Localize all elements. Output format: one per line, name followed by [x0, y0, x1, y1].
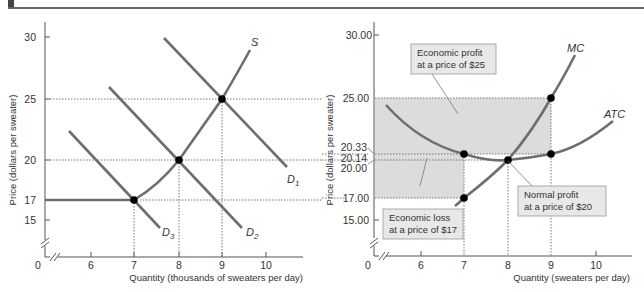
left-xtick-10: 10 — [260, 259, 272, 271]
label-d1: D1 — [287, 173, 299, 188]
label-atc: ATC — [603, 108, 625, 120]
economic-profit-box: Economic profit at a price of $25 — [411, 44, 496, 74]
right-xtick-7: 7 — [461, 259, 467, 271]
right-ylabel: Price (dollars per sweater) — [324, 95, 335, 206]
left-origin-label: 0 — [35, 259, 41, 271]
normal-profit-box: Normal profit at a price of $20 — [518, 186, 606, 216]
equilibrium-point-d1 — [218, 95, 226, 103]
demand-curve-d3 — [69, 131, 160, 228]
left-ytick-20: 20 — [24, 154, 36, 166]
equilibrium-point-d2 — [175, 156, 183, 164]
svg-text:at a price of $25: at a price of $25 — [417, 59, 485, 70]
equilibrium-point-d3 — [130, 196, 138, 204]
left-xlabel: Quantity (thousands of sweaters per day) — [129, 272, 303, 283]
left-chart: Price (dollars per sweater) 30 25 20 17 … — [7, 22, 322, 283]
right-ytick-20-00: 20.00 — [341, 162, 367, 174]
left-ylabel: Price (dollars per sweater) — [7, 95, 18, 206]
demand-curve-d1 — [164, 38, 287, 167]
left-xtick-6: 6 — [88, 259, 94, 271]
label-d3: D3 — [162, 226, 175, 241]
svg-text:Economic profit: Economic profit — [417, 47, 483, 58]
left-xtick-7: 7 — [131, 259, 137, 271]
right-origin-label: 0 — [365, 259, 371, 271]
right-chart: Price (dollars per sweater) 30.00 25.00 … — [322, 22, 632, 283]
point-atc-7 — [460, 150, 468, 158]
point-mc-25 — [547, 94, 555, 102]
left-guides — [50, 99, 322, 257]
right-ytick-15: 15.00 — [343, 214, 369, 226]
svg-text:at a price of $17: at a price of $17 — [389, 224, 457, 235]
supply-curve — [45, 50, 250, 200]
svg-text:at a price of $20: at a price of $20 — [524, 201, 592, 212]
right-ytick-30: 30.00 — [346, 29, 372, 41]
economic-profit-area — [375, 98, 551, 154]
charts-canvas: Price (dollars per sweater) 30 25 20 17 … — [0, 0, 644, 292]
right-xtick-8: 8 — [505, 259, 511, 271]
left-ytick-30: 30 — [24, 31, 36, 43]
right-xtick-10: 10 — [590, 259, 602, 271]
svg-text:Economic loss: Economic loss — [389, 212, 450, 223]
economic-loss-box: Economic loss at a price of $17 — [383, 209, 463, 239]
right-xlabel: Quantity (sweaters per day) — [513, 272, 630, 283]
left-ytick-15: 15 — [24, 214, 36, 226]
left-ytick-17: 17 — [24, 194, 36, 206]
point-mc-17 — [460, 194, 468, 202]
right-xtick-9: 9 — [548, 259, 554, 271]
svg-text:Normal profit: Normal profit — [524, 189, 579, 200]
point-min-atc — [504, 156, 512, 164]
right-ytick-17: 17.00 — [343, 192, 369, 204]
label-s: S — [251, 36, 259, 48]
label-mc: MC — [567, 42, 584, 54]
economic-loss-area — [375, 154, 464, 198]
left-xtick-8: 8 — [176, 259, 182, 271]
label-d2: D2 — [246, 226, 259, 241]
left-xtick-9: 9 — [219, 259, 225, 271]
point-atc-9 — [547, 150, 555, 158]
left-ytick-25: 25 — [24, 93, 36, 105]
right-xtick-6: 6 — [418, 259, 424, 271]
right-ytick-25: 25.00 — [343, 92, 369, 104]
